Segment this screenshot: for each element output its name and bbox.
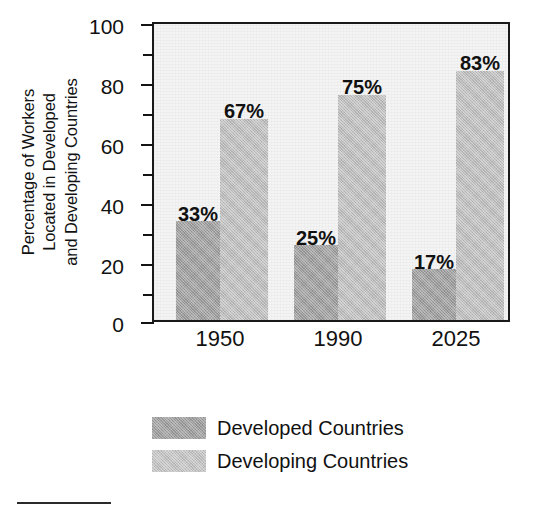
bar-chart-figure: Percentage of Workers Located in Develop… — [0, 0, 547, 510]
y-tick-label-0: 0 — [112, 314, 124, 335]
plot-area: 100 80 60 40 20 0 33% 67% 25% 75% — [152, 22, 510, 322]
y-tick-60: 60 — [141, 144, 154, 146]
bar-1950-developing[interactable] — [220, 119, 268, 320]
legend-swatch-developed-icon — [152, 417, 206, 439]
bar-label-1950-developing: 67% — [224, 101, 264, 121]
bar-1990-developed[interactable] — [294, 245, 338, 320]
x-tick-label-1950: 1950 — [196, 328, 245, 350]
y-tick-100: 100 — [141, 24, 154, 26]
y-tick-label-100: 100 — [89, 16, 124, 37]
x-tick-label-2025: 2025 — [432, 328, 481, 350]
y-tick-80: 80 — [141, 84, 154, 86]
bar-1990-developing[interactable] — [338, 95, 386, 320]
y-tick-minor-90 — [143, 54, 154, 56]
legend-label-developed: Developed Countries — [217, 418, 404, 438]
y-tick-0: 0 — [141, 322, 154, 324]
footer-divider — [17, 502, 111, 504]
y-tick-40: 40 — [141, 204, 154, 206]
y-tick-label-40: 40 — [101, 196, 124, 217]
y-tick-label-60: 60 — [101, 136, 124, 157]
y-axis-title-line-2: Located in Developed — [39, 93, 60, 251]
bar-label-1990-developed: 25% — [296, 228, 336, 248]
bar-2025-developing[interactable] — [456, 71, 504, 320]
y-tick-minor-70 — [143, 114, 154, 116]
y-tick-20: 20 — [141, 264, 154, 266]
bar-label-2025-developed: 17% — [414, 252, 454, 272]
bar-label-1950-developed: 33% — [178, 204, 218, 224]
y-tick-label-20: 20 — [101, 256, 124, 277]
y-tick-label-80: 80 — [101, 76, 124, 97]
y-tick-minor-30 — [143, 234, 154, 236]
legend-label-developing: Developing Countries — [217, 451, 408, 471]
bar-label-2025-developing: 83% — [460, 53, 500, 73]
bar-1950-developed[interactable] — [176, 221, 220, 320]
legend: Developed Countries Developing Countries — [152, 414, 482, 480]
bar-2025-developed[interactable] — [412, 269, 456, 320]
legend-swatch-developing-icon — [152, 450, 206, 472]
y-tick-minor-10 — [143, 294, 154, 296]
legend-item-developed[interactable]: Developed Countries — [152, 414, 482, 442]
y-tick-minor-50 — [143, 174, 154, 176]
bar-label-1990-developing: 75% — [342, 77, 382, 97]
y-axis-title-line-3: and Developing Countries — [61, 78, 82, 265]
legend-item-developing[interactable]: Developing Countries — [152, 447, 482, 475]
y-axis-title-line-1: Percentage of Workers — [18, 89, 39, 255]
x-tick-label-1990: 1990 — [314, 328, 363, 350]
y-axis-title: Percentage of Workers Located in Develop… — [0, 6, 100, 338]
